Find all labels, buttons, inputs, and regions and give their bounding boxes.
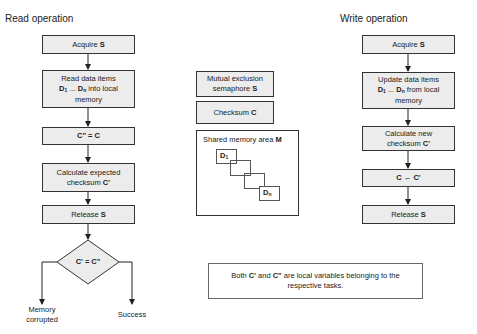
write-assign-checksum: C ← C' [362,169,455,187]
note-text: are local variables belonging to the [282,271,400,280]
read-acquire-s: Acquire S [42,35,135,54]
note-text: Both [231,271,249,280]
step-symbol: C' [103,178,110,187]
read-release-s: Release S [42,205,135,224]
step-text: Calculate new [385,129,432,138]
step-symbol: S [252,84,257,93]
note-text: respective tasks. [288,281,344,290]
step-text: from local [405,85,440,94]
read-operation-title: Read operation [5,13,73,24]
ellipsis: ... [386,85,396,94]
step-text: into local [86,84,118,93]
write-calculate-new: Calculate newchecksum C' [362,126,455,151]
write-update-data-items: Update data items D1 ... Dn from local m… [362,72,455,109]
step-symbol: S [101,210,106,219]
note-text: and [256,271,273,280]
local-variables-note: Both C' and C" are local variables belon… [208,263,423,299]
step-symbol: S [420,40,425,49]
step-text: memory [75,95,102,104]
ellipsis: ... [67,84,77,93]
step-symbol: C" = C [77,131,100,141]
arrow-success [119,262,132,304]
step-symbol: C' [423,139,430,148]
step-symbol: S [100,40,105,49]
checksum-c: Checksum C [196,101,274,124]
memory-label-last: Dn [263,188,271,197]
step-symbol: C ← C' [396,173,420,183]
step-text: Read data items [61,74,116,83]
step-text: Calculate expected [57,168,121,177]
decision-label: C' = C" [70,257,106,267]
mutual-exclusion-semaphore: Mutual exclusionsemaphore S [196,71,274,97]
write-operation-title: Write operation [340,13,408,24]
step-text: Update data items [378,75,439,84]
arrow-memory-corrupted [42,262,57,304]
write-acquire-s: Acquire S [362,35,455,54]
step-text: memory [395,96,422,105]
step-text: Release [71,210,101,219]
step-text: Release [391,210,421,219]
note-symbol: C" [273,271,282,280]
outcome-success: Success [112,310,152,320]
memory-label-first: D1 [220,151,228,160]
note-symbol: C' [249,271,256,280]
read-data-items: Read data items D1 ... Dn into local mem… [42,70,135,108]
step-text: Checksum [214,108,252,117]
outcome-text: Memory [28,305,55,314]
step-text: semaphore [213,84,253,93]
write-release-s: Release S [362,205,455,224]
step-text: Acquire [392,40,420,49]
step-text: Shared memory area [203,135,276,144]
step-text: checksum [387,139,423,148]
outcome-text: corrupted [26,315,58,324]
outcome-memory-corrupted: Memorycorrupted [20,305,64,325]
step-symbol: C [251,108,256,117]
subscript: 1 [225,154,228,160]
step-text: checksum [67,178,103,187]
subscript: n [268,191,271,197]
step-symbol: M [276,135,282,144]
step-text: Acquire [72,40,100,49]
step-text: Mutual exclusion [207,74,263,83]
read-calculate-expected: Calculate expectedchecksum C' [42,163,135,192]
read-copy-checksum: C" = C [42,127,135,145]
step-symbol: S [421,210,426,219]
